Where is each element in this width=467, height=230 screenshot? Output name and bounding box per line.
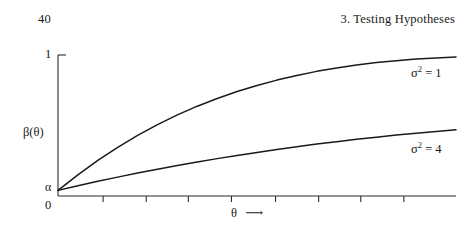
page-number: 40 xyxy=(38,12,51,27)
sigma-icon: σ xyxy=(411,142,418,156)
axes-group xyxy=(58,55,456,196)
sigma-value: 1 xyxy=(435,66,441,80)
y-axis-alpha-label: α xyxy=(45,180,51,194)
x-axis-ticks xyxy=(103,196,404,202)
sigma-value: 4 xyxy=(435,142,441,156)
series-curve-0 xyxy=(58,57,456,190)
x-axis-title: θ ⟶ xyxy=(231,206,263,220)
series-curve-1 xyxy=(58,130,456,191)
page-canvas: 40 3. Testing Hypotheses 1 α 0 β(θ) θ ⟶ … xyxy=(0,0,467,230)
x-axis-title-text: θ xyxy=(231,206,237,220)
y-axis-tick-label-origin: 0 xyxy=(45,198,51,212)
series-curves xyxy=(58,57,456,190)
arrow-right-icon: ⟶ xyxy=(245,206,263,220)
chapter-title: 3. Testing Hypotheses xyxy=(340,12,455,27)
sigma-icon: σ xyxy=(411,66,418,80)
series-label-sigma-4: σ2 = 4 xyxy=(411,138,442,156)
series-label-sigma-1: σ2 = 1 xyxy=(411,62,442,80)
figure-power-function-plot: 1 α 0 β(θ) θ ⟶ σ2 = 1 σ2 = 4 xyxy=(0,36,467,230)
equals-sign: = xyxy=(422,66,435,80)
y-axis-title: β(θ) xyxy=(23,125,44,139)
plot-svg xyxy=(0,36,467,230)
equals-sign: = xyxy=(422,142,435,156)
y-axis-tick-label-top: 1 xyxy=(45,47,51,61)
